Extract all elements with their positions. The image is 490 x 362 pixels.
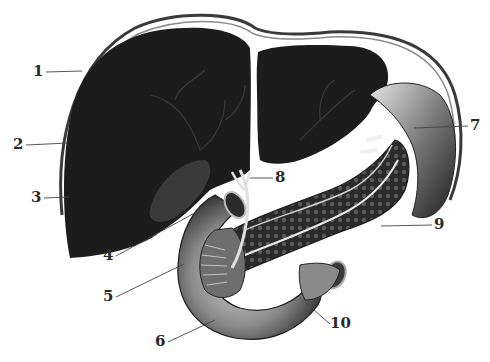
label-9: 9: [434, 217, 444, 232]
label-6: 6: [155, 334, 165, 349]
falciform-ligament: [252, 40, 256, 170]
liver-left-lobe: [256, 45, 388, 164]
duodenojejunal-flexure: [299, 263, 340, 300]
leader-1: [46, 71, 82, 72]
leader-6: [168, 320, 215, 342]
label-4: 4: [103, 248, 113, 263]
splenic-vessels: [362, 137, 380, 152]
duodenum-mucosa: [200, 228, 245, 298]
label-2: 2: [13, 137, 23, 152]
anatomy-figure: [0, 0, 490, 362]
leader-9: [381, 225, 432, 226]
label-7: 7: [470, 118, 480, 133]
label-10: 10: [330, 316, 351, 331]
label-1: 1: [33, 64, 43, 79]
label-5: 5: [103, 289, 113, 304]
label-8: 8: [275, 170, 285, 185]
label-3: 3: [31, 190, 41, 205]
leader-5: [116, 264, 184, 297]
leader-2: [26, 143, 68, 145]
